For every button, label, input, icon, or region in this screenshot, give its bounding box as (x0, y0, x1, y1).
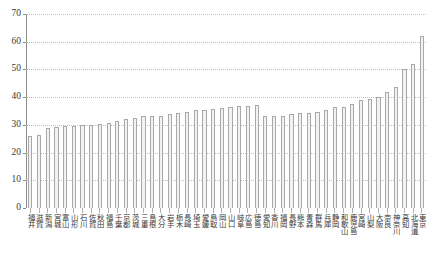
x-label-slot: 滋賀 (35, 213, 44, 263)
x-label-slot: 福島 (104, 213, 113, 263)
bar (281, 116, 285, 208)
x-tick-label: 山口 (227, 213, 235, 263)
x-label-slot: 和歌山 (339, 213, 348, 263)
y-tick-label: 40 (12, 92, 22, 102)
bar-slot (357, 14, 366, 208)
bar-slot (78, 14, 87, 208)
bar-slot (374, 14, 383, 208)
y-tick-label: 30 (12, 120, 22, 130)
bar-slot (339, 14, 348, 208)
bar (263, 116, 267, 208)
x-label-slot: 山形 (70, 213, 79, 263)
x-label-slot: 青森 (305, 213, 314, 263)
x-tick-label: 山梨 (366, 213, 374, 263)
bar (359, 100, 363, 208)
bar (368, 99, 372, 208)
bar (176, 113, 180, 208)
bar (385, 92, 389, 208)
x-label-slot: 静岡 (331, 213, 340, 263)
x-tick-label: 福井 (27, 213, 35, 263)
x-label-slot: 福井 (26, 213, 35, 263)
x-label-slot: 栃木 (174, 213, 183, 263)
bar (220, 108, 224, 208)
x-tick-label: 山形 (70, 213, 78, 263)
x-tick-label: 茨城 (131, 213, 139, 263)
x-label-slot: 宮城 (52, 213, 61, 263)
bar-slot (209, 14, 218, 208)
bar-slot (165, 14, 174, 208)
x-label-slot: 福岡 (278, 213, 287, 263)
x-tick-label: 群馬 (314, 213, 322, 263)
bar-slot (278, 14, 287, 208)
x-tick-label: 宮城 (53, 213, 61, 263)
bar (28, 136, 32, 208)
bar (246, 106, 250, 208)
x-tick-label: 三重 (140, 213, 148, 263)
x-tick-label: 佐賀 (88, 213, 96, 263)
bar-slot (104, 14, 113, 208)
bar (202, 110, 206, 208)
plot-area: 010203040506070 (26, 14, 426, 208)
x-tick-label: 島根 (148, 213, 156, 263)
bar-slot (331, 14, 340, 208)
bar-slot (113, 14, 122, 208)
bar (342, 107, 346, 208)
x-tick-label: 広島 (244, 213, 252, 263)
bar (185, 112, 189, 208)
bar-slot (296, 14, 305, 208)
bar-slot (122, 14, 131, 208)
x-tick-label: 香川 (270, 213, 278, 263)
bar (159, 116, 163, 208)
bar (228, 107, 232, 208)
bar-slot (313, 14, 322, 208)
x-tick-label: 兵庫 (322, 213, 330, 263)
bar (211, 109, 215, 208)
bar (420, 36, 424, 208)
bar-slot (287, 14, 296, 208)
x-label-slot: 鹿児島 (348, 213, 357, 263)
x-label-slot: 京都 (122, 213, 131, 263)
bar (255, 105, 259, 208)
bar (307, 113, 311, 208)
x-label-slot: 熊本 (296, 213, 305, 263)
bar-slot (70, 14, 79, 208)
x-label-slot: 香川 (270, 213, 279, 263)
bar-slot (418, 14, 427, 208)
bar (72, 126, 76, 208)
bar-slot (365, 14, 374, 208)
x-tick-label: 岡山 (218, 213, 226, 263)
y-tick-label: 70 (12, 9, 22, 19)
x-label-slot: 長野 (287, 213, 296, 263)
bar (402, 69, 406, 208)
bar-slot (409, 14, 418, 208)
bar (394, 87, 398, 208)
y-tick-label: 0 (16, 203, 21, 213)
bar-slot (148, 14, 157, 208)
bar (107, 123, 111, 208)
x-label-slot: 山梨 (365, 213, 374, 263)
x-tick-label: 大分 (157, 213, 165, 263)
bar-slot (35, 14, 44, 208)
x-label-slot: 富山 (61, 213, 70, 263)
bar (80, 125, 84, 208)
bar (298, 113, 302, 208)
x-tick-label: 高知 (401, 213, 409, 263)
y-tick-label: 60 (12, 37, 22, 47)
x-label-slot: 佐賀 (87, 213, 96, 263)
x-label-slot: 新潟 (43, 213, 52, 263)
bar (333, 107, 337, 208)
bar (89, 125, 93, 208)
bar-chart: 010203040506070 福井滋賀新潟宮城富山山形石川佐賀秋田福島千葉京都… (0, 0, 434, 263)
x-label-slot: 大阪 (374, 213, 383, 263)
bar-slot (400, 14, 409, 208)
bar (46, 128, 50, 208)
bar (411, 64, 415, 208)
x-label-slot: 愛媛 (200, 213, 209, 263)
x-tick-label: 北海道 (410, 213, 418, 263)
x-label-slot: 山口 (226, 213, 235, 263)
x-tick-label: 岩手 (166, 213, 174, 263)
bar-slot (174, 14, 183, 208)
x-label-slot: 鳥取 (209, 213, 218, 263)
bar-slot (348, 14, 357, 208)
x-label-slot: 宮崎 (357, 213, 366, 263)
